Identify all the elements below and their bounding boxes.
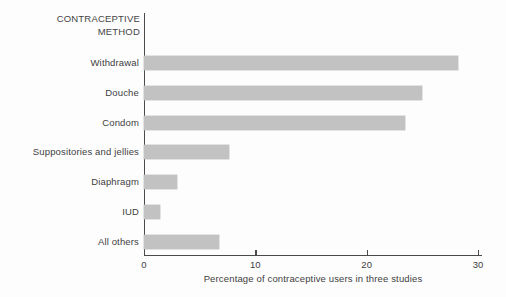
bar-chart: CONTRACEPTIVE METHOD WithdrawalDoucheCon… — [0, 0, 506, 297]
x-axis-tick-label: 20 — [352, 259, 382, 271]
category-label: Suppositories and jellies — [0, 146, 139, 157]
x-axis-tick — [255, 250, 256, 256]
x-axis-tick-label: 30 — [463, 259, 493, 271]
x-axis-tick-label: 0 — [129, 259, 159, 271]
category-axis-title: CONTRACEPTIVE METHOD — [0, 13, 140, 38]
x-axis-tick-label: 10 — [240, 259, 270, 271]
bar — [144, 205, 160, 219]
bar — [144, 175, 177, 189]
x-axis-line — [144, 255, 482, 256]
category-label: Diaphragm — [0, 176, 139, 187]
category-label: Condom — [0, 117, 139, 128]
x-axis-tick — [144, 250, 145, 256]
bar — [144, 145, 229, 159]
category-label: Withdrawal — [0, 57, 139, 68]
category-label: Douche — [0, 87, 139, 98]
x-axis-tick — [478, 250, 479, 256]
category-label: All others — [0, 236, 139, 247]
y-axis-line — [144, 13, 145, 256]
x-axis-tick — [367, 250, 368, 256]
x-axis-title: Percentage of contraceptive users in thr… — [144, 273, 482, 284]
bar — [144, 86, 422, 100]
bar — [144, 235, 219, 249]
bar — [144, 56, 458, 70]
bar — [144, 116, 405, 130]
category-label: IUD — [0, 206, 139, 217]
